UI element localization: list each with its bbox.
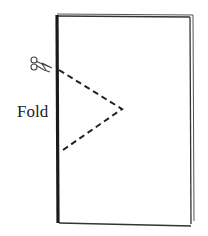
fold-label: Fold [17, 102, 48, 122]
cut-line [59, 70, 122, 150]
front-page [57, 16, 191, 226]
back-page [57, 14, 194, 221]
fold-spine [57, 15, 58, 223]
scissors-icon [31, 57, 52, 72]
